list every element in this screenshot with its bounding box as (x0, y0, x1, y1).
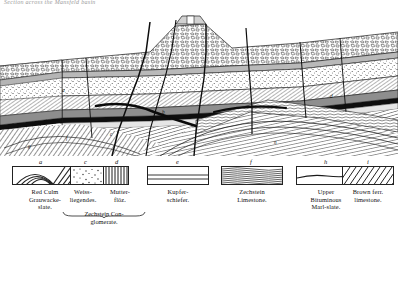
legend-item-c[interactable]: c Weiss- liegendes. (60, 160, 102, 203)
legend-key-d: d (115, 159, 118, 166)
legend-key-f: f (250, 159, 252, 166)
svg-text:a: a (62, 87, 65, 93)
legend-key-e: e (176, 159, 179, 166)
section-body: a d g f c n b (0, 16, 398, 156)
svg-text:n: n (274, 139, 277, 145)
legend-row-1: a Red Culm Grauwacke- slate. c (0, 160, 398, 228)
legend-label-f: Zechstein Limestone. (212, 188, 292, 203)
legend-bracket: Zechstein Con- glomerate. (62, 204, 146, 222)
cross-section-figure: a d g f c n b (0, 8, 398, 156)
legend-swatch-i (342, 166, 394, 185)
legend-swatch-e (147, 166, 209, 185)
legend-label-i: Brown ferr. limestone. (338, 188, 398, 203)
top-caption: Section across the Mansfeld basin (4, 0, 96, 5)
svg-text:d: d (330, 93, 333, 99)
legend-item-f[interactable]: f Zechstein Limestone. (212, 160, 292, 203)
legend-key-h: h (324, 159, 327, 166)
legend-item-i[interactable]: i Brown ferr. limestone. (338, 160, 398, 203)
geological-plate: Section across the Mansfeld basin (0, 0, 398, 297)
legend-item-e[interactable]: e Kupfer- schiefer. (141, 160, 215, 203)
legend-key-c: c (84, 159, 87, 166)
svg-text:b: b (162, 109, 165, 115)
legend-label-e: Kupfer- schiefer. (141, 188, 215, 203)
svg-text:g: g (28, 143, 31, 149)
legend-key-i: i (367, 159, 369, 166)
surface-structure (176, 16, 206, 24)
legend-swatch-f (221, 166, 283, 185)
legend-bracket-label: Zechstein Con- glomerate. (62, 210, 146, 225)
legend-swatch-c (70, 166, 103, 185)
legend-key-a: a (39, 159, 42, 166)
legend-item-d[interactable]: d Mutter- flöz. (101, 160, 143, 203)
legend-label-d: Mutter- flöz. (97, 188, 143, 203)
legend-swatch-d (103, 166, 129, 185)
